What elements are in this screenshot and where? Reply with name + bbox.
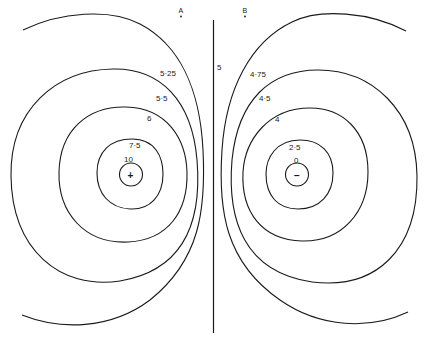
positive-charge-sign: +: [128, 170, 134, 181]
contour-6: [59, 107, 187, 242]
point-b: B: [243, 7, 248, 17]
contour-5-25: [22, 14, 204, 325]
label-6: 6: [147, 114, 152, 123]
label-4: 4: [275, 115, 280, 124]
contour-4-75: [221, 14, 408, 324]
label-2-5: 2·5: [289, 143, 301, 152]
label-7-5: 7·5: [129, 141, 141, 150]
contour-4: [243, 108, 368, 241]
label-4-75: 4·75: [250, 70, 267, 79]
point-b-label: B: [243, 7, 248, 14]
label-0: 0: [294, 156, 299, 165]
point-a-label: A: [179, 7, 184, 14]
center-line-label: 5: [217, 63, 222, 72]
point-a: A: [179, 7, 184, 17]
point-a-dot: [180, 16, 182, 18]
label-10: 10: [124, 155, 133, 164]
label-4-5: 4·5: [259, 94, 271, 103]
label-5-5: 5·5: [156, 94, 168, 103]
negative-charge-sign: −: [294, 170, 300, 181]
label-5-25: 5·25: [160, 69, 177, 78]
contour-5-5: [11, 69, 198, 282]
equipotential-diagram: 5 A B + 10 7·5 6 5·5 5·25 − 0 2·5 4 4·5 …: [0, 0, 428, 346]
point-b-dot: [244, 16, 246, 18]
